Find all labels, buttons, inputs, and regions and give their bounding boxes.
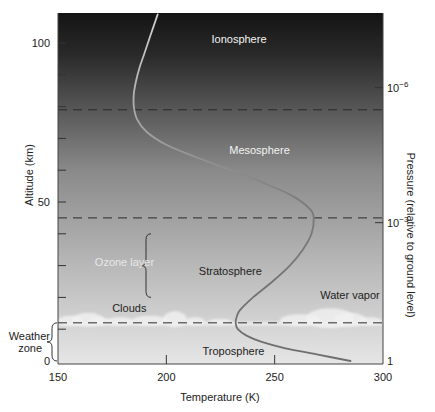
clouds-label: Clouds <box>112 302 147 314</box>
y-tick-label: 0 <box>44 355 50 367</box>
pressure-tick-base: 10 <box>387 82 399 94</box>
troposphere-label: Troposphere <box>203 345 265 357</box>
stratosphere-label: Stratosphere <box>199 265 262 277</box>
pressure-tick-exponent: −6 <box>399 80 409 89</box>
atmosphere-temperature-chart: 050100 150200250300 110−310−6 Ionosphere… <box>0 0 435 412</box>
y2-axis-title: Pressure (relative to ground level) <box>405 152 417 317</box>
y-tick-label: 100 <box>32 37 50 49</box>
pressure-tick-base: 10 <box>387 217 399 229</box>
mesosphere-label: Mesosphere <box>229 144 290 156</box>
y-axis-title: Altitude (km) <box>23 144 35 206</box>
weather-zone-1-label: Weather <box>9 330 51 342</box>
x-tick-label: 250 <box>265 371 283 383</box>
pressure-tick-base: 1 <box>387 355 393 367</box>
y-tick-label: 50 <box>38 196 50 208</box>
pressure-tick-label: 10−6 <box>387 80 409 94</box>
ionosphere-label: Ionosphere <box>211 33 266 45</box>
x-tick-label: 300 <box>374 371 392 383</box>
x-tick-label: 200 <box>157 371 175 383</box>
x-axis-title: Temperature (K) <box>180 391 259 403</box>
water-vapor-label: Water vapor <box>320 289 380 301</box>
x-tick-label: 150 <box>49 371 67 383</box>
pressure-tick-label: 1 <box>387 355 393 367</box>
weather-zone-2-label: zone <box>18 342 42 354</box>
ozone-layer-label: Ozone layer <box>95 256 155 268</box>
